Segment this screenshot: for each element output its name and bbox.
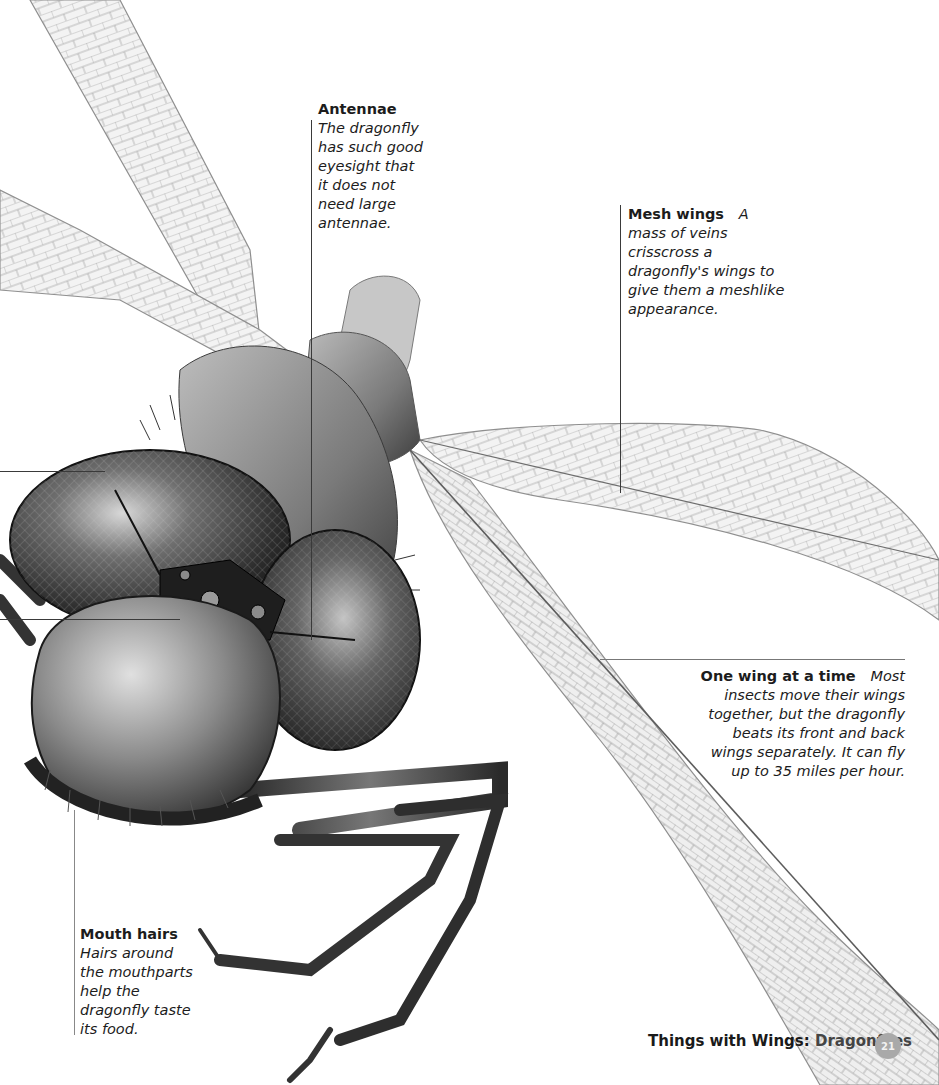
- leader-line-one-wing: [600, 659, 905, 660]
- callout-body: The dragonfly has such good eyesight tha…: [318, 119, 428, 233]
- callout-title: Mesh wings: [628, 206, 734, 222]
- footer-section: Things with Wings:: [648, 1032, 810, 1050]
- page-footer: Things with Wings: Dragonflies: [648, 1032, 912, 1050]
- callout-antennae: Antennae The dragonfly has such good eye…: [318, 100, 428, 233]
- page-number: 21: [881, 1041, 895, 1052]
- leader-line-mouth-hairs: [74, 810, 75, 1035]
- callout-mesh-wings: Mesh wings A mass of veins crisscross a …: [628, 205, 788, 319]
- leader-line-eye-upper: [0, 471, 105, 472]
- callout-mouth-hairs: Mouth hairs Hairs around the mouthparts …: [80, 925, 200, 1039]
- callout-one-wing-at-a-time: One wing at a time Most insects move the…: [690, 667, 905, 781]
- callout-body: Most insects move their wings together, …: [708, 668, 905, 779]
- callout-title: One wing at a time: [701, 668, 866, 684]
- callout-title: Mouth hairs: [80, 925, 200, 944]
- page-number-badge: 21: [875, 1033, 901, 1059]
- callout-body: Hairs around the mouthparts help the dra…: [80, 944, 200, 1039]
- leader-line-eye-lower: [0, 619, 180, 620]
- dragonfly-illustration: [0, 0, 939, 1085]
- callout-body: A mass of veins crisscross a dragonfly's…: [628, 206, 785, 317]
- leader-line-antennae: [311, 120, 312, 640]
- leader-line-mesh-wings: [620, 205, 621, 493]
- callout-title: Antennae: [318, 100, 428, 119]
